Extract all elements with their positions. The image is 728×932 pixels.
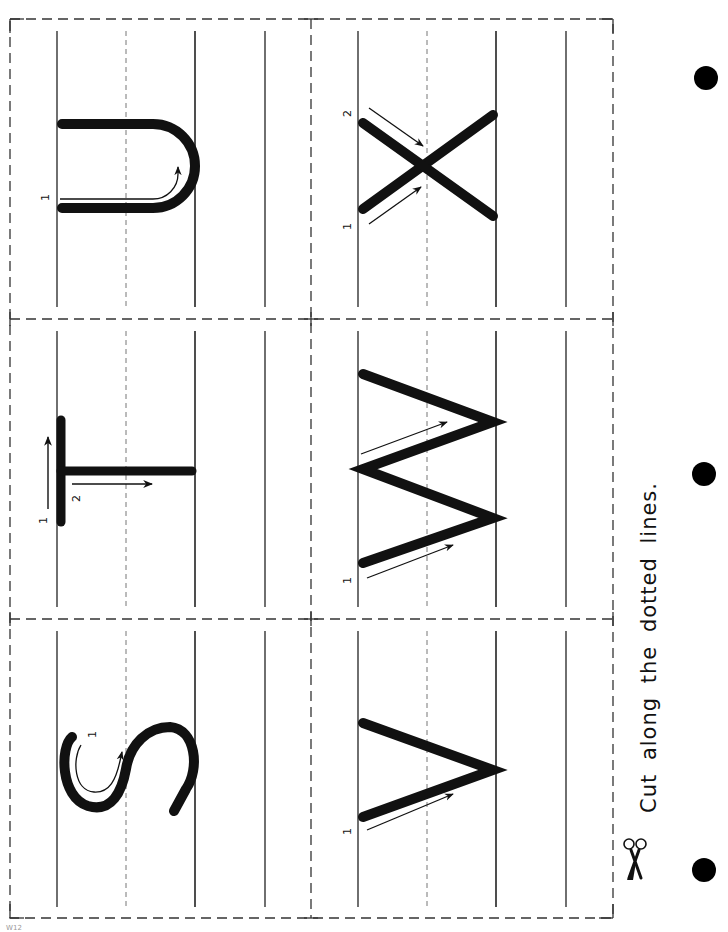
letter-u-stroke <box>62 124 195 208</box>
stroke-number: 1 <box>37 517 50 524</box>
instruction-text: Cut along the dotted lines. <box>637 482 661 813</box>
card-letter-v: 1 <box>341 631 566 907</box>
stroke-number: 1 <box>86 731 99 738</box>
stroke-number: 2 <box>70 495 83 502</box>
binder-hole-icon <box>692 858 716 882</box>
card-letter-s: 1 <box>57 631 265 907</box>
stroke-number: 1 <box>39 194 52 201</box>
card-letter-t: 1 2 <box>37 331 265 607</box>
binder-hole-icon <box>694 66 718 90</box>
stroke-number: 1 <box>341 223 354 230</box>
stroke-number: 1 <box>341 828 354 835</box>
binder-hole-icon <box>692 462 716 486</box>
stroke-number: 2 <box>341 110 354 117</box>
card-letter-w: 1 <box>341 331 566 607</box>
stroke-number: 1 <box>341 577 354 584</box>
stroke-direction-arrow <box>60 167 178 199</box>
letter-s-stroke <box>64 727 194 811</box>
letter-tracing-worksheet: 1 1 2 1 2 1 1 1 <box>0 0 728 932</box>
page-code: W12 <box>6 924 22 932</box>
stroke-direction-arrow <box>76 745 122 792</box>
card-letter-u: 1 <box>39 31 265 307</box>
card-letter-x: 1 2 <box>341 31 566 307</box>
scissors-icon <box>624 839 646 880</box>
